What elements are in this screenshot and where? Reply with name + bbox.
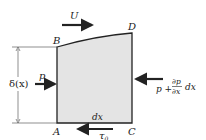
right-pressure-dx: dx: [185, 82, 196, 92]
right-pressure-numerator: ∂p: [172, 77, 181, 86]
width-label: dx: [92, 112, 103, 122]
freestream-velocity-label: U: [70, 10, 79, 21]
corner-a-label: A: [52, 126, 60, 137]
right-pressure-p-label: p +: [156, 84, 172, 94]
wall-shear-label: τ0: [99, 130, 109, 140]
corner-d-label: D: [127, 21, 136, 32]
corner-c-label: C: [128, 126, 136, 137]
right-pressure-denominator: ∂x: [172, 87, 181, 96]
left-pressure-label: p: [39, 70, 46, 81]
corner-b-label: B: [52, 35, 60, 46]
control-volume: [57, 33, 132, 123]
control-volume-diagram: δ(x) U B D A C p p + ∂p ∂x dx dx τ0: [0, 0, 206, 140]
thickness-label: δ(x): [9, 78, 29, 89]
